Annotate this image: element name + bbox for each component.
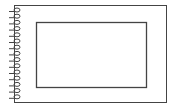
- spiral-notebook-icon: [0, 0, 176, 110]
